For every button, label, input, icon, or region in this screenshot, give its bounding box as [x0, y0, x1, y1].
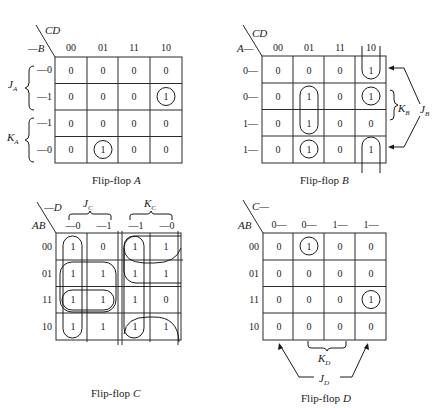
row-header: 01 [249, 268, 259, 279]
cell: 0 [101, 65, 106, 76]
cell: 0 [307, 268, 312, 279]
cell: 0 [276, 118, 281, 129]
cell: 0 [101, 241, 106, 252]
col-variable-label: —D [43, 201, 62, 213]
cell: 1 [101, 144, 106, 155]
col-header: 01 [304, 42, 314, 53]
cell: 0 [369, 268, 374, 279]
kmap-flip-flop-b: CD A— 00 01 11 10 0— 0— 1— 1— 0 0 0 1 0 … [236, 25, 430, 186]
cell: 0 [338, 241, 343, 252]
kmap-flip-flop-d: C— AB 0— 0— 1— 1— 00 01 11 10 0 1 0 0 0 … [237, 200, 386, 404]
cell: 0 [338, 144, 343, 155]
col-variable-label: C— [252, 200, 269, 212]
label-k: KD [317, 352, 330, 367]
caption: Flip-flop D [301, 392, 351, 404]
cell: 1 [133, 321, 138, 332]
cell: 1 [133, 294, 138, 305]
cell: 1 [307, 241, 312, 252]
col-header: —1 [96, 220, 112, 231]
arrowhead-icon [388, 145, 394, 150]
cell: 0 [164, 294, 169, 305]
row-header: —1 [36, 91, 52, 102]
arrow-j-bottom [390, 116, 420, 147]
row-header: 10 [249, 321, 259, 332]
col-header: —0 [159, 220, 175, 231]
cell: 0 [164, 65, 169, 76]
row-header: 0— [243, 65, 259, 76]
row-variable-label: —B [27, 42, 45, 54]
row-header: 11 [42, 294, 52, 305]
column-headers: 0— 0— 1— 1— [272, 219, 380, 230]
row-variable-label: AB [237, 219, 252, 231]
row-header: 0— [243, 91, 259, 102]
col-header: 1— [333, 219, 349, 230]
cell: 0 [307, 65, 312, 76]
col-header: 00 [273, 42, 283, 53]
cell: 0 [369, 118, 374, 129]
cell: 1 [164, 268, 169, 279]
col-header: —1 [128, 220, 144, 231]
cell: 0 [338, 65, 343, 76]
label-j: JA [8, 78, 18, 93]
cell: 1 [369, 65, 374, 76]
col-header: 11 [335, 42, 345, 53]
brace-k [25, 118, 34, 162]
column-headers: 00 01 11 10 [66, 42, 171, 53]
kmap-flip-flop-c: —D AB JC KC —0 —1 —1 —0 00 01 11 10 1 0 … [31, 197, 183, 399]
col-variable-label: CD [252, 27, 267, 39]
cell: 0 [277, 294, 282, 305]
cell: 0 [307, 321, 312, 332]
cell: 1 [369, 91, 374, 102]
row-headers: —0 —1 —1 —0 [36, 64, 52, 155]
cell: 0 [369, 321, 374, 332]
cell: 0 [338, 294, 343, 305]
row-headers: 00 01 11 10 [42, 241, 52, 332]
brace-k [130, 211, 172, 220]
cell: 0 [101, 91, 106, 102]
cell: 1 [307, 118, 312, 129]
label-j: JB [420, 103, 430, 118]
row-header: 1— [243, 118, 259, 129]
row-header: 1— [243, 144, 259, 155]
row-header: —1 [36, 117, 52, 128]
label-k: KA [6, 131, 19, 146]
cell: 0 [132, 144, 137, 155]
row-headers: 0— 0— 1— 1— [243, 65, 259, 155]
cell: 0 [338, 91, 343, 102]
column-headers: 00 01 11 10 [273, 42, 376, 53]
cell: 0 [101, 118, 106, 129]
row-header: —0 [36, 144, 52, 155]
col-header: 1— [364, 219, 380, 230]
cell: 1 [307, 144, 312, 155]
col-header: —0 [65, 220, 81, 231]
grid-lines [262, 56, 386, 163]
cell: 0 [338, 268, 343, 279]
wrap-loop-bottom [362, 137, 380, 173]
brace-j [25, 66, 34, 110]
cell: 0 [369, 241, 374, 252]
cell: 1 [101, 321, 106, 332]
kmap-flip-flop-a: CD —B 00 01 11 10 —0 —1 —1 —0 0 0 0 0 0 … [6, 24, 182, 186]
cell: 0 [132, 65, 137, 76]
caption: Flip-flop C [91, 387, 141, 399]
cell: 0 [338, 118, 343, 129]
cell: 0 [277, 241, 282, 252]
cell: 0 [69, 91, 74, 102]
col-header: 10 [161, 42, 171, 53]
col-header: 0— [302, 219, 318, 230]
cell: 0 [276, 144, 281, 155]
column-headers: —0 —1 —1 —0 [65, 220, 175, 231]
caption: Flip-flop B [300, 174, 349, 186]
cell: 1 [369, 294, 374, 305]
cell: 1 [71, 268, 76, 279]
arrow-j-right [340, 345, 367, 377]
cell: 1 [133, 241, 138, 252]
label-k: KB [397, 102, 410, 117]
cell: 0 [69, 65, 74, 76]
col-variable-label: CD [45, 24, 60, 36]
col-header: 01 [98, 42, 108, 53]
col-header: 11 [129, 42, 139, 53]
col-header: 00 [66, 42, 76, 53]
row-header: 11 [249, 294, 259, 305]
cell: 1 [101, 294, 106, 305]
